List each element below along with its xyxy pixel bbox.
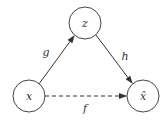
edge-g-label: g [42,46,49,59]
edge-f-label: f [82,102,89,115]
edge-g-x-to-z [39,36,74,84]
edge-h-label: h [121,50,128,63]
autoencoder-diagram: x z x̂ g h f [0,0,168,122]
node-z: z [69,7,101,39]
node-xhat: x̂ [127,80,159,112]
node-x-label: x [26,90,33,103]
node-xhat-label: x̂ [140,90,147,103]
node-x: x [13,80,45,112]
node-z-label: z [81,17,88,30]
